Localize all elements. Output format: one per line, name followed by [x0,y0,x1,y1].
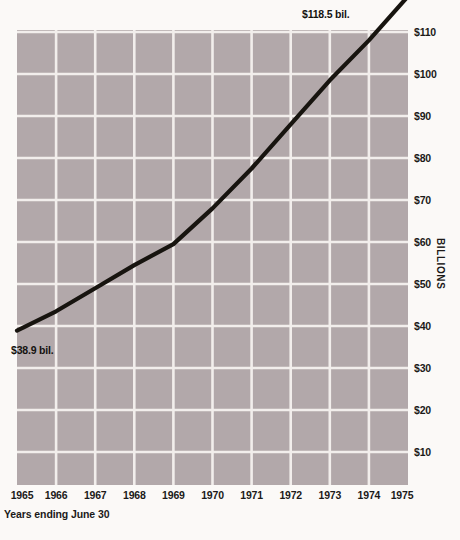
x-tick-label: 1974 [358,489,381,501]
y-tick-label: $90 [414,111,431,122]
annotation-end-value: $118.5 bil. [302,8,349,20]
y-axis: BILLIONS $110$100$90$80$70$60$50$40$30$2… [409,0,460,540]
y-tick-label: $70 [414,195,431,206]
annotation-start-value: $38.9 bil. [11,344,53,356]
vertical-gridlines [56,30,369,485]
x-tick-label: 1972 [279,489,302,501]
x-tick-label: 1966 [45,489,68,501]
y-tick-label: $20 [414,405,431,416]
x-axis-caption: Years ending June 30 [4,508,109,520]
y-axis-title: BILLIONS [435,238,446,289]
gridlines [17,30,408,485]
y-tick-label: $80 [414,153,431,164]
y-tick-label: $50 [414,279,431,290]
x-axis: 1965196619671968196919701971197219731974… [0,489,460,505]
y-tick-label: $110 [414,27,436,38]
y-tick-label: $40 [414,321,431,332]
y-tick-label: $30 [414,363,431,374]
x-tick-label: 1967 [84,489,107,501]
y-tick-label: $60 [414,237,431,248]
x-tick-label: 1965 [11,489,34,501]
y-tick-label: $100 [414,69,437,80]
x-tick-label: 1970 [201,489,224,501]
plot-area [17,30,408,485]
x-tick-label: 1971 [240,489,263,501]
x-tick-label: 1968 [123,489,146,501]
x-tick-label: 1975 [391,489,414,501]
line-chart-figure: BILLIONS $110$100$90$80$70$60$50$40$30$2… [0,0,460,540]
y-tick-label: $10 [414,447,431,458]
x-tick-label: 1969 [162,489,185,501]
x-tick-label: 1973 [319,489,342,501]
